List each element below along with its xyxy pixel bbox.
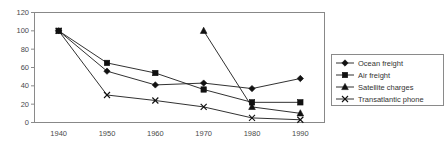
chart-legend: Ocean freightAir freightSatellite charge… [332,55,444,106]
legend-label: Satellite charges [358,83,414,92]
legend-label: Ocean freight [358,59,404,68]
series-line-ocean-freight [59,31,301,89]
data-point [297,75,303,81]
x-tick-label: 1940 [50,129,67,138]
data-point [152,82,158,88]
series-line-transatlantic-phone [59,31,301,120]
x-tick-label: 1990 [292,129,309,138]
x-tick-label: 1980 [244,129,261,138]
data-point [200,27,207,33]
data-point [298,100,303,105]
y-tick-label: 120 [16,8,29,17]
y-tick-label: 60 [21,63,29,72]
data-point [201,87,206,92]
x-tick-label: 1950 [99,129,116,138]
data-point [153,70,158,75]
chart-canvas: 020406080100120 194019501960197019801990… [0,0,446,149]
y-tick-label: 40 [21,81,29,90]
y-tick-label: 100 [16,26,29,35]
legend-marker-square [342,72,347,77]
x-tick-label: 1960 [147,129,164,138]
y-axis-ticks [31,13,35,123]
data-point [249,85,255,91]
series-lines-group [59,31,301,120]
series-markers-air-freight [56,28,303,105]
y-tick-label: 80 [21,45,29,54]
legend-label: Transatlantic phone [358,95,424,104]
plot-area-frame [35,13,325,123]
y-tick-label: 0 [25,118,29,127]
data-point [104,60,109,65]
x-tick-label: 1970 [195,129,212,138]
y-tick-label: 20 [21,100,29,109]
data-point [200,80,206,86]
line-chart: 020406080100120 194019501960197019801990… [0,0,446,149]
series-line-air-freight [59,31,301,103]
y-axis-tick-labels: 020406080100120 [16,8,29,127]
legend-label: Air freight [358,71,391,80]
x-axis-tick-labels: 194019501960197019801990 [50,129,308,138]
